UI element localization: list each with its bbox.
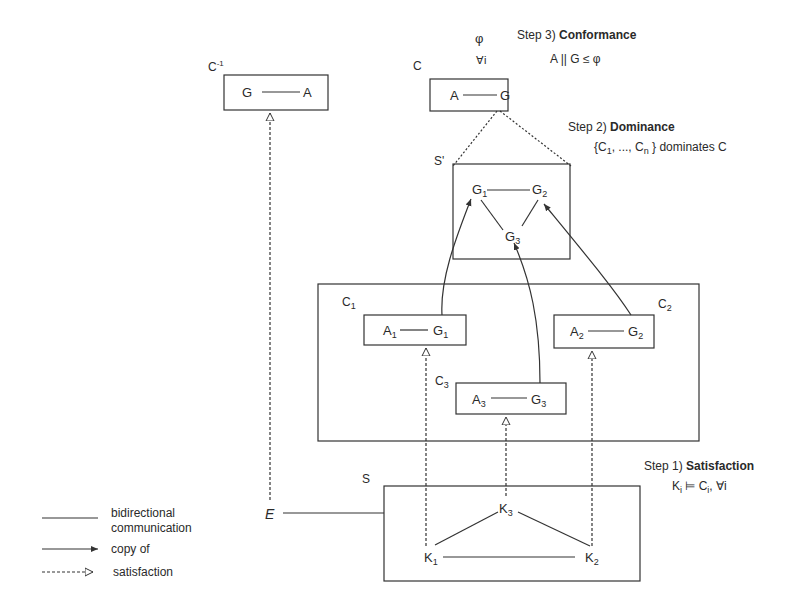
step3-prefix: Step 3)	[517, 28, 559, 42]
step2-prefix: Step 2)	[568, 120, 610, 134]
legend-label-bidirectional: bidirectional communication	[111, 506, 192, 536]
s-k3: K3	[499, 502, 513, 518]
s-prime-g1: G1	[472, 183, 487, 199]
step2-formula: {C1, ..., Cn } dominates C	[594, 141, 727, 156]
c-inverse-g: G	[242, 86, 252, 99]
step3-name: Conformance	[559, 28, 636, 42]
box-s	[384, 486, 640, 581]
step1-name: Satisfaction	[686, 459, 754, 473]
c-g: G	[500, 89, 510, 102]
c2-label: C2	[658, 298, 672, 313]
c3-a3: A3	[472, 393, 486, 409]
step2-title: Step 2) Dominance	[568, 121, 675, 133]
s-label: S	[362, 473, 370, 485]
s-prime-g2: G2	[532, 183, 547, 199]
c1-label: C1	[342, 296, 356, 311]
copy-arrow-g3	[514, 243, 540, 383]
c1-g1: G1	[433, 324, 448, 340]
c3-label: C3	[435, 375, 449, 390]
environment-label: E	[265, 507, 274, 521]
step1-title: Step 1) Satisfaction	[644, 460, 754, 472]
step3-title: Step 3) Conformance	[517, 29, 636, 41]
c-inverse-a: A	[303, 86, 312, 99]
box-composite	[318, 284, 699, 441]
forall-i-label: ∀i	[476, 55, 486, 66]
step2-name: Dominance	[610, 120, 675, 134]
c1-a1: A1	[383, 324, 397, 340]
s-k1: K1	[424, 551, 438, 567]
step1-formula: Ki ⊨ Ci, ∀i	[672, 480, 727, 495]
c2-g2: G2	[628, 325, 643, 341]
c-inverse-label: C-1	[208, 60, 224, 73]
c2-a2: A2	[570, 325, 584, 341]
legend-label-satisfaction: satisfaction	[113, 565, 173, 580]
step1-prefix: Step 1)	[644, 459, 686, 473]
c3-g3: G3	[531, 393, 546, 409]
legend-label-copy: copy of	[111, 542, 150, 557]
copy-arrow-g1	[442, 199, 471, 315]
c-label: C	[413, 60, 422, 72]
s-prime-g3: G3	[505, 230, 520, 246]
step3-formula: A || G ≤ φ	[550, 53, 601, 65]
dominance-projection-right	[500, 111, 571, 166]
phi-symbol: φ	[475, 32, 483, 45]
s-prime-label: S'	[434, 155, 444, 167]
dominance-projection-left	[453, 111, 497, 166]
c-a: A	[450, 89, 459, 102]
s-k2: K2	[585, 551, 599, 567]
